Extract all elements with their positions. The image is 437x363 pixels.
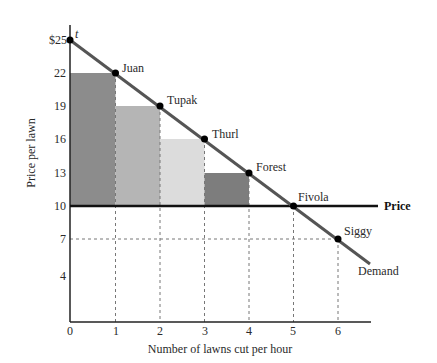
y-tick: 7 bbox=[60, 232, 66, 246]
x-tick: 4 bbox=[246, 324, 252, 338]
y-tick: 10 bbox=[54, 199, 66, 213]
point-juan bbox=[112, 70, 119, 77]
x-tick: 0 bbox=[67, 324, 73, 338]
label-price: Price bbox=[384, 199, 411, 213]
point-tupak bbox=[157, 103, 164, 110]
y-tick: 13 bbox=[54, 166, 66, 180]
label-forest: Forest bbox=[256, 160, 287, 174]
x-tick: 3 bbox=[202, 324, 208, 338]
label-juan: Juan bbox=[122, 61, 144, 75]
x-tick: 6 bbox=[335, 324, 341, 338]
point-forest bbox=[246, 170, 253, 177]
point-fivola bbox=[290, 203, 297, 210]
bar-forest bbox=[205, 173, 250, 206]
bar-tupak bbox=[116, 106, 161, 206]
bar-thurl bbox=[160, 139, 205, 206]
x-tick-labels: 0 1 2 3 4 5 6 bbox=[67, 324, 341, 338]
y-tick: 4 bbox=[60, 269, 66, 283]
y-tick: 16 bbox=[54, 132, 66, 146]
y-axis-title: Price per lawn bbox=[24, 118, 38, 187]
label-demand: Demand bbox=[358, 264, 399, 278]
x-tick: 1 bbox=[113, 324, 119, 338]
point-t bbox=[67, 37, 74, 44]
y-tick: 19 bbox=[54, 99, 66, 113]
label-tupak: Tupak bbox=[167, 93, 197, 107]
label-fivola: Fivola bbox=[298, 190, 329, 204]
x-tick: 5 bbox=[290, 324, 296, 338]
point-thurl bbox=[201, 136, 208, 143]
y-tick: 22 bbox=[54, 66, 66, 80]
x-tick: 2 bbox=[157, 324, 163, 338]
bar-juan bbox=[70, 73, 116, 206]
label-t: t bbox=[75, 27, 79, 41]
chart: t Juan Tupak Thurl Forest Fivola Siggy D… bbox=[0, 0, 437, 363]
point-siggy bbox=[335, 236, 342, 243]
label-siggy: Siggy bbox=[344, 224, 372, 238]
y-tick: $25 bbox=[49, 33, 67, 47]
x-axis-title: Number of lawns cut per hour bbox=[148, 342, 292, 356]
y-tick-labels: $25 22 19 16 13 10 7 4 bbox=[49, 33, 67, 283]
label-thurl: Thurl bbox=[212, 127, 239, 141]
